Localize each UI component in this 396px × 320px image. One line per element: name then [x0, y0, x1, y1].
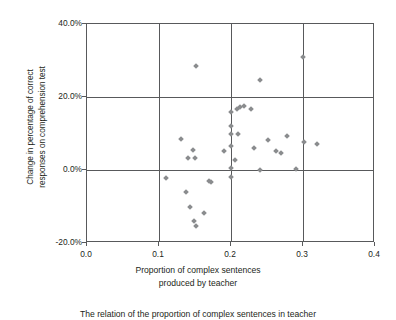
- data-point: [228, 143, 234, 149]
- gridline-vertical: [159, 24, 160, 241]
- data-point: [251, 145, 257, 151]
- data-point: [228, 174, 234, 180]
- data-point: [266, 137, 272, 143]
- x-tick-mark: [374, 242, 375, 246]
- data-point: [257, 77, 263, 83]
- data-point: [228, 109, 234, 115]
- x-axis-title-line-1: Proportion of complex sentences: [0, 264, 396, 277]
- data-point: [315, 141, 321, 147]
- x-tick-mark: [158, 242, 159, 246]
- data-point: [241, 103, 247, 109]
- data-point: [163, 175, 169, 181]
- y-tick-label-20: 20.0%: [36, 92, 82, 101]
- x-tick-mark: [302, 242, 303, 246]
- x-tick-label: 0.2: [210, 249, 250, 259]
- figure-caption: The relation of the proportion of comple…: [0, 308, 396, 320]
- data-point: [221, 148, 227, 154]
- data-point: [194, 63, 200, 69]
- data-point: [248, 106, 254, 112]
- plot-area: [86, 23, 374, 242]
- data-point: [194, 223, 200, 229]
- x-tick-label: 0.4: [354, 249, 394, 259]
- data-point: [187, 204, 193, 210]
- data-point: [184, 189, 190, 195]
- x-tick-label: 0.0: [66, 249, 106, 259]
- data-point: [279, 150, 285, 156]
- data-point: [228, 131, 234, 137]
- data-point: [232, 157, 238, 163]
- data-point: [257, 168, 263, 174]
- data-point: [190, 147, 196, 153]
- x-tick-label: 0.3: [282, 249, 322, 259]
- data-point: [302, 139, 308, 145]
- x-tick-mark: [86, 242, 87, 246]
- y-tick-label-neg20: -20.0%: [36, 238, 82, 247]
- data-point: [201, 210, 207, 216]
- data-point: [178, 136, 184, 142]
- data-point: [284, 134, 290, 140]
- x-axis-title: Proportion of complex sentences produced…: [0, 264, 396, 289]
- x-axis-title-line-2: produced by teacher: [0, 277, 396, 290]
- data-point: [235, 131, 241, 137]
- gridline-horizontal: [87, 97, 373, 98]
- data-point: [192, 155, 198, 161]
- data-point: [228, 123, 234, 129]
- y-tick-label-0: 0.0%: [36, 165, 82, 174]
- x-tick-label: 0.1: [138, 249, 178, 259]
- y-tick-label-40: 40.0%: [36, 19, 82, 28]
- data-point: [300, 54, 306, 60]
- x-tick-mark: [230, 242, 231, 246]
- data-point: [185, 155, 191, 161]
